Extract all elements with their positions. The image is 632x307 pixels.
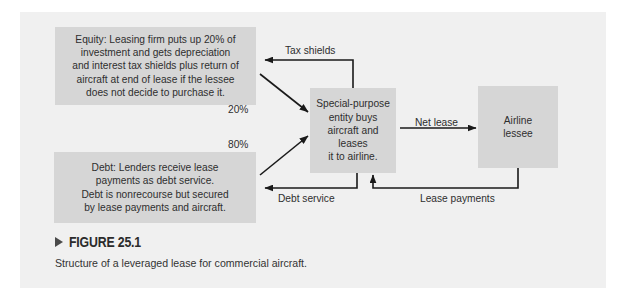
- node-special-purpose-entity: Special-purpose entity buys aircraft and…: [310, 88, 396, 173]
- edge-equity-share: [260, 74, 308, 112]
- edge-debt-share: [260, 136, 308, 175]
- figure-caption-text: Structure of a leveraged lease for comme…: [55, 257, 575, 269]
- figure-number: FIGURE 25.1: [69, 234, 141, 250]
- node-debt: Debt: Lenders receive lease payments as …: [54, 152, 256, 223]
- node-equity-label: Equity: Leasing firm puts up 20% of inve…: [68, 33, 243, 99]
- edge-debt-service: [265, 173, 357, 188]
- figure-panel: Equity: Leasing firm puts up 20% of inve…: [20, 12, 606, 288]
- node-airline-label: Airline lessee: [499, 114, 536, 141]
- edge-label-debt-service: Debt service: [278, 193, 335, 204]
- node-debt-label: Debt: Lenders receive lease payments as …: [77, 161, 232, 214]
- edge-tax-shields: [265, 60, 353, 88]
- triangle-right-icon: [55, 237, 63, 247]
- edge-label-debt-share: 80%: [228, 139, 248, 150]
- edge-label-tax-shields: Tax shields: [285, 45, 335, 56]
- edge-label-equity-share: 20%: [228, 104, 248, 115]
- edge-label-lease-payments: Lease payments: [420, 193, 495, 204]
- node-equity: Equity: Leasing firm puts up 20% of inve…: [55, 27, 256, 105]
- edge-label-net-lease: Net lease: [415, 117, 458, 128]
- node-airline-lessee: Airline lessee: [478, 86, 558, 168]
- node-spe-label: Special-purpose entity buys aircraft and…: [310, 97, 396, 163]
- figure-caption-block: FIGURE 25.1 Structure of a leveraged lea…: [55, 234, 575, 269]
- figure-heading: FIGURE 25.1: [55, 234, 575, 250]
